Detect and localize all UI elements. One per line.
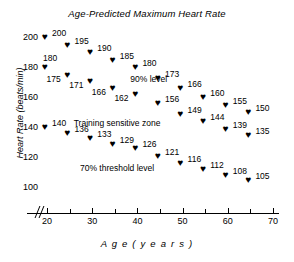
data-point-heart-icon: ♥: [132, 143, 138, 153]
chart-annotation: Training sensitive zone: [74, 118, 161, 128]
x-tick-mark: [137, 208, 138, 213]
data-point-heart-icon: ♥: [178, 158, 184, 168]
data-point-heart-icon: ♥: [245, 130, 251, 140]
x-tick-label: 40: [125, 216, 149, 226]
data-point-label: 162: [114, 94, 128, 103]
chart-annotation: 90% level: [130, 74, 167, 84]
data-point-label: 126: [142, 140, 156, 149]
data-point-heart-icon: ♥: [132, 89, 138, 99]
chart-figure: Age-Predicted Maximum Heart Rate Heart R…: [0, 0, 294, 262]
y-tick-label: 180: [8, 63, 38, 72]
chart-annotation: 70% threshold level: [80, 163, 154, 173]
data-point-heart-icon: ♥: [42, 32, 48, 42]
data-point-label: 121: [165, 148, 179, 157]
data-point-heart-icon: ♥: [178, 83, 184, 93]
data-point-heart-icon: ♥: [223, 124, 229, 134]
data-point-heart-icon: ♥: [155, 98, 161, 108]
data-point-heart-icon: ♥: [65, 40, 71, 50]
data-point-label: 160: [210, 89, 224, 98]
data-point-heart-icon: ♥: [223, 170, 229, 180]
x-tick-mark: [273, 208, 274, 213]
data-point-label: 175: [47, 75, 61, 84]
x-tick-mark: [205, 209, 206, 213]
x-tick-label: 30: [80, 216, 104, 226]
data-point-heart-icon: ♥: [110, 83, 116, 93]
x-tick-label: 20: [35, 216, 59, 226]
data-point-heart-icon: ♥: [245, 175, 251, 185]
chart-title: Age-Predicted Maximum Heart Rate: [0, 8, 294, 19]
data-point-label: 180: [142, 59, 156, 68]
x-tick-mark: [92, 208, 93, 213]
x-tick-label: 70: [261, 216, 285, 226]
data-point-heart-icon: ♥: [178, 109, 184, 119]
data-point-label: 180: [43, 54, 57, 63]
data-point-label: 166: [188, 80, 202, 89]
data-point-heart-icon: ♥: [245, 107, 251, 117]
y-tick-label: 200: [8, 33, 38, 42]
data-point-heart-icon: ♥: [87, 76, 93, 86]
data-point-label: 112: [210, 161, 224, 170]
data-point-heart-icon: ♥: [223, 100, 229, 110]
y-tick-label: 120: [8, 153, 38, 162]
data-point-heart-icon: ♥: [87, 133, 93, 143]
data-point-label: 171: [69, 81, 83, 90]
x-axis-label: A g e ( y e a r s ): [0, 238, 294, 249]
data-point-label: 116: [188, 155, 202, 164]
y-tick-label: 160: [8, 93, 38, 102]
data-point-label: 144: [210, 113, 224, 122]
data-point-heart-icon: ♥: [42, 122, 48, 132]
data-point-heart-icon: ♥: [200, 92, 206, 102]
data-point-label: 156: [165, 95, 179, 104]
x-tick-mark: [250, 209, 251, 213]
x-tick-mark: [183, 208, 184, 213]
y-tick-label: 100: [8, 183, 38, 192]
x-tick-mark: [115, 209, 116, 213]
data-point-label: 155: [233, 97, 247, 106]
data-point-label: 105: [255, 172, 269, 181]
data-point-heart-icon: ♥: [200, 164, 206, 174]
data-point-heart-icon: ♥: [65, 128, 71, 138]
data-point-label: 150: [255, 104, 269, 113]
x-tick-mark: [160, 209, 161, 213]
data-point-label: 133: [97, 130, 111, 139]
data-point-label: 166: [92, 88, 106, 97]
x-tick-mark: [228, 208, 229, 213]
data-point-heart-icon: ♥: [155, 151, 161, 161]
data-point-label: 190: [97, 44, 111, 53]
data-point-heart-icon: ♥: [110, 139, 116, 149]
data-point-heart-icon: ♥: [65, 70, 71, 80]
y-tick-label: 140: [8, 123, 38, 132]
data-point-label: 139: [233, 121, 247, 130]
data-point-heart-icon: ♥: [132, 62, 138, 72]
data-point-label: 135: [255, 127, 269, 136]
data-point-label: 149: [188, 106, 202, 115]
data-point-label: 200: [52, 29, 66, 38]
x-axis-line: [27, 213, 279, 214]
data-point-heart-icon: ♥: [42, 62, 48, 72]
data-point-label: 195: [75, 37, 89, 46]
x-tick-mark: [47, 208, 48, 213]
data-point-heart-icon: ♥: [110, 55, 116, 65]
data-point-heart-icon: ♥: [200, 116, 206, 126]
x-tick-label: 50: [171, 216, 195, 226]
data-point-heart-icon: ♥: [87, 47, 93, 57]
data-point-label: 185: [120, 52, 134, 61]
x-tick-label: 60: [216, 216, 240, 226]
x-tick-mark: [70, 209, 71, 213]
